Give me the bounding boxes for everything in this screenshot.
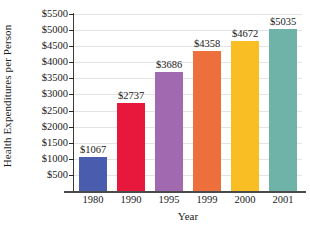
gridline [74,127,302,128]
y-axis-tick-label: $2000 [18,122,68,132]
y-axis-tick-label: $1000 [18,154,68,164]
y-axis-tick-label: $2500 [18,106,68,116]
y-axis-tick-label: $4500 [18,41,68,51]
y-axis-tick-label: $5000 [18,25,68,35]
y-axis-tick-mark [69,127,74,128]
bar-chart: Health Expenditures per Person $500$1000… [0,0,310,230]
x-axis-line [64,191,306,193]
y-axis-tick-label: $3500 [18,73,68,83]
y-axis-tick-mark [69,46,74,47]
y-axis-tick-mark [69,14,74,15]
y-axis-tick-mark [69,159,74,160]
y-axis-tick-labels: $500$1000$1500$2000$2500$3000$3500$4000$… [18,0,68,230]
bar-value-label: $1067 [67,144,119,155]
bar-2000 [231,41,259,191]
y-axis-tick-mark [69,94,74,95]
bar-value-label: $3686 [143,59,195,70]
y-axis-tick-mark [69,78,74,79]
gridline [74,159,302,160]
bar-1995 [155,72,183,191]
gridline [74,78,302,79]
y-axis-tick-label: $3000 [18,89,68,99]
gridline [74,14,302,15]
y-axis-tick-label: $5500 [18,9,68,19]
y-axis-tick-mark [69,111,74,112]
x-axis-tick-label: 2001 [259,194,307,205]
bar-value-label: $2737 [105,90,157,101]
y-axis-title: Health Expenditures per Person [0,0,14,192]
bar-value-label: $4358 [181,38,233,49]
bar-1980 [79,157,107,191]
y-axis-tick-label: $4000 [18,57,68,67]
bar-1990 [117,103,145,191]
x-axis-title: Year [74,210,302,222]
y-axis-tick-mark [69,62,74,63]
bar-value-label: $4672 [219,28,271,39]
y-axis-tick-mark [69,175,74,176]
y-axis-tick-mark [69,30,74,31]
gridline [74,175,302,176]
bar-2001 [269,29,297,191]
bar-value-label: $5035 [257,16,309,27]
gridline [74,111,302,112]
y-axis-tick-label: $500 [18,170,68,180]
y-axis-tick-label: $1500 [18,138,68,148]
bar-1999 [193,51,221,191]
